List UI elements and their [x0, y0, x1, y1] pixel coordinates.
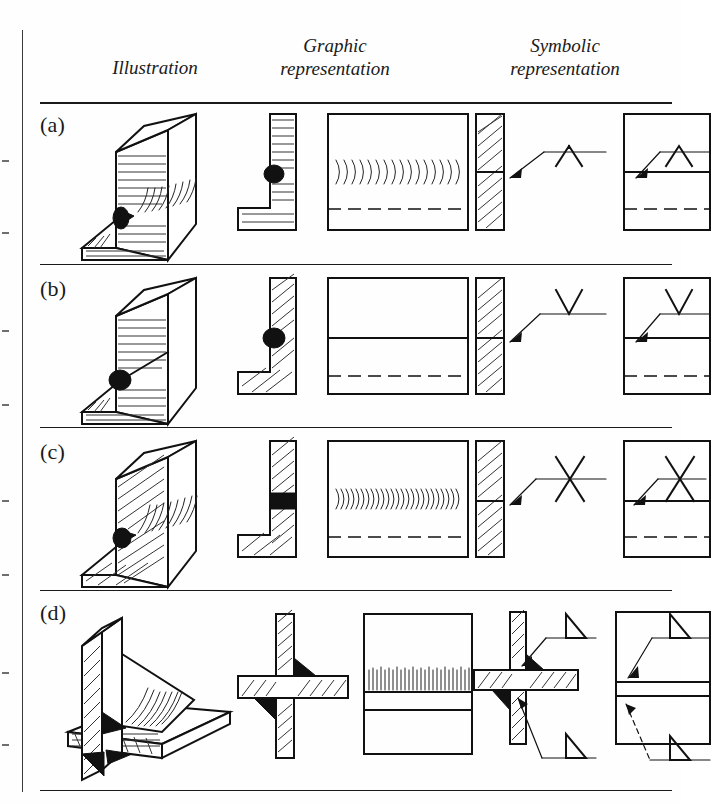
weld-symbol-vee [556, 290, 582, 314]
front-view-box [364, 614, 472, 754]
column-header-symbolic-line1: Symbolic [530, 35, 600, 56]
table-row: (b) [40, 264, 672, 427]
column-header-symbolic: Symbolic representation [460, 34, 670, 80]
row-label-c: (c) [40, 439, 65, 465]
weld-bead [263, 328, 285, 348]
weld-bead [264, 165, 284, 183]
column-header-graphic: Graphic representation [230, 34, 440, 80]
edge-tick [2, 232, 9, 234]
weld-bead-lower [254, 698, 276, 720]
leader-line [510, 152, 606, 178]
edge-tick [2, 744, 9, 746]
cell-d-graphic [236, 610, 476, 780]
weld-symbol-fillet-upper [670, 614, 690, 638]
cell-b-graphic [236, 276, 476, 421]
column-header-illustration: Illustration [70, 56, 240, 79]
margin-rule [22, 30, 23, 792]
weld-ripples [369, 667, 469, 690]
cell-c-illustration [72, 435, 232, 587]
weld-bead-upper [294, 658, 316, 676]
edge-tick [2, 330, 9, 332]
leader-line-lower [626, 704, 710, 760]
table-rule-bottom [40, 790, 672, 791]
weld-symbol-fillet-lower [566, 734, 586, 758]
weld-bead-lower [492, 690, 510, 710]
table-row: (d) [40, 590, 672, 790]
weld-symbol-caret [666, 146, 692, 166]
edge-tick [2, 500, 9, 502]
cell-c-graphic [236, 439, 476, 584]
row-label-b: (b) [40, 276, 66, 302]
leader-line [510, 479, 606, 505]
weld-symbol-caret [556, 146, 582, 166]
front-view-box [328, 114, 468, 230]
weld-bead [109, 370, 131, 390]
weld-symbol-fillet-lower [670, 736, 690, 760]
cell-a-symbolic [474, 112, 712, 257]
cell-d-illustration [54, 604, 244, 784]
cell-c-symbolic [474, 439, 712, 584]
leader-line-upper [628, 638, 710, 678]
leader-line-lower [518, 698, 596, 758]
cell-a-graphic [236, 112, 476, 257]
edge-tick [2, 672, 9, 674]
table-row: (c) [40, 427, 672, 590]
row-label-a: (a) [40, 112, 65, 138]
weld-bead [270, 493, 296, 509]
column-header-graphic-line1: Graphic [303, 35, 366, 56]
cell-d-symbolic [474, 608, 712, 788]
edge-tick [2, 160, 9, 162]
column-headers: Illustration Graphic representation Symb… [40, 34, 672, 96]
cell-b-illustration [72, 272, 232, 424]
cell-a-illustration [72, 108, 232, 260]
weld-ripples [336, 489, 459, 509]
column-header-graphic-line2: representation [230, 57, 440, 80]
weld-symbol-fillet-upper [566, 614, 586, 638]
column-header-symbolic-line2: representation [460, 57, 670, 80]
column-header-illustration-line1: Illustration [112, 57, 198, 78]
table-row: (a) [40, 102, 672, 264]
cell-b-symbolic [474, 276, 712, 421]
weld-ripples [336, 160, 460, 184]
weld-symbol-vee [666, 290, 692, 314]
edge-tick [2, 404, 9, 406]
leader-line [510, 314, 606, 342]
edge-tick [2, 574, 9, 576]
